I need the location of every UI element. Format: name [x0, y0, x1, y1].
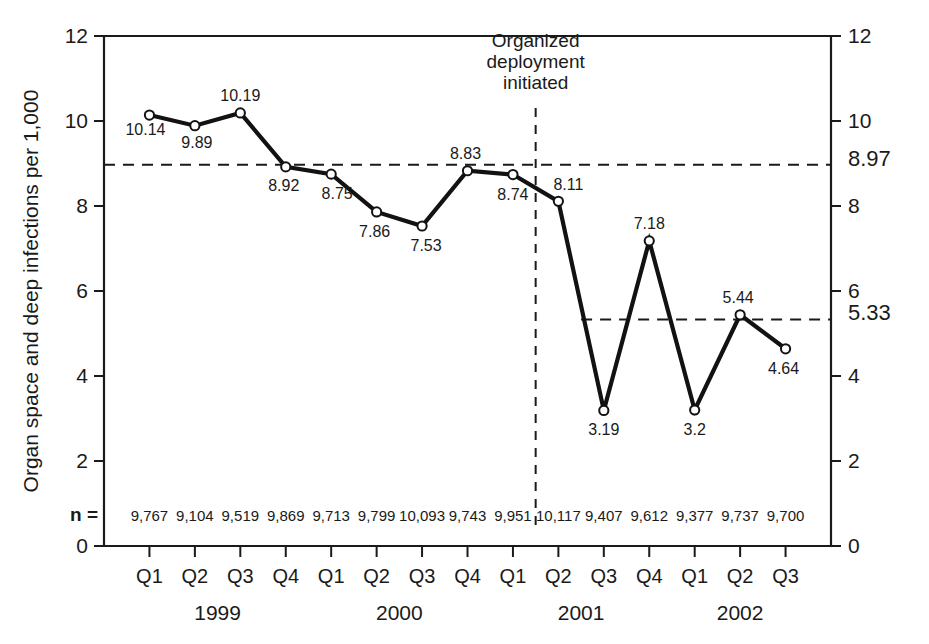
data-value-label: 5.44 [723, 289, 754, 306]
n-value: 9,407 [585, 507, 623, 524]
data-point [281, 162, 290, 171]
year-label: 2001 [558, 601, 605, 624]
n-value: 9,951 [494, 507, 532, 524]
y-axis-right-ticks: 024681012 [831, 24, 871, 557]
data-point [463, 166, 472, 175]
data-point [145, 110, 154, 119]
data-point [690, 405, 699, 414]
infection-rate-line-chart: 024681012 024681012 Organ space and deep… [0, 0, 929, 644]
data-value-label: 3.2 [684, 421, 706, 438]
y-tick-label-right: 8 [848, 194, 860, 217]
n-value: 9,869 [267, 507, 305, 524]
y-tick-label-left: 0 [76, 534, 88, 557]
chart-svg: 024681012 024681012 Organ space and deep… [0, 0, 929, 644]
y-tick-label-left: 12 [65, 24, 88, 47]
data-point [372, 207, 381, 216]
data-point [645, 236, 654, 245]
quarter-labels: Q1Q2Q3Q4Q1Q2Q3Q4Q1Q2Q3Q4Q1Q2Q3 [136, 565, 799, 587]
year-label: 2002 [717, 601, 764, 624]
y-axis-title: Organ space and deep infections per 1,00… [19, 90, 42, 493]
quarter-label: Q1 [136, 565, 163, 587]
data-value-label: 8.92 [268, 177, 299, 194]
quarter-label: Q4 [454, 565, 481, 587]
data-value-label: 7.53 [410, 237, 441, 254]
n-value: 9,377 [676, 507, 714, 524]
data-value-label: 4.64 [768, 360, 799, 377]
year-label: 1999 [194, 601, 241, 624]
y-tick-label-right: 4 [848, 364, 860, 387]
n-value: 9,767 [131, 507, 169, 524]
n-value: 10,093 [399, 507, 445, 524]
data-value-label: 9.89 [181, 134, 212, 151]
n-value: 9,519 [222, 507, 260, 524]
quarter-label: Q3 [409, 565, 436, 587]
quarter-label: Q3 [772, 565, 799, 587]
quarter-label: Q4 [272, 565, 299, 587]
n-value: 10,117 [536, 507, 581, 524]
quarter-label: Q1 [500, 565, 527, 587]
quarter-label: Q2 [182, 565, 209, 587]
data-value-label: 8.11 [553, 176, 583, 193]
data-point [736, 310, 745, 319]
quarter-label: Q1 [318, 565, 345, 587]
data-value-label: 8.74 [497, 186, 528, 203]
data-value-label: 8.75 [322, 185, 353, 202]
n-values-row: 9,7679,1049,5199,8699,7139,79910,0939,74… [131, 507, 805, 524]
event-annotation-line: initiated [503, 72, 569, 93]
quarter-label: Q2 [363, 565, 390, 587]
x-axis-ticks [149, 546, 785, 557]
y-tick-label-right: 0 [848, 534, 860, 557]
data-point [599, 406, 608, 415]
year-labels: 1999200020012002 [194, 601, 763, 624]
y-tick-label-right: 10 [848, 109, 871, 132]
n-value: 9,612 [630, 507, 668, 524]
data-point [781, 344, 790, 353]
data-value-label: 3.19 [588, 421, 619, 438]
quarter-label: Q2 [545, 565, 572, 587]
event-annotation-line: Organized [492, 30, 580, 51]
event-annotation-line: deployment [487, 51, 586, 72]
data-value-label: 10.19 [220, 87, 260, 104]
y-axis-left-ticks: 024681012 [65, 24, 104, 557]
quarter-label: Q3 [590, 565, 617, 587]
data-value-label: 10.14 [125, 121, 165, 138]
n-row-label: n = [70, 504, 98, 525]
y-tick-label-right: 12 [848, 24, 871, 47]
n-value: 9,743 [449, 507, 487, 524]
n-value: 9,737 [721, 507, 759, 524]
data-value-label: 8.83 [450, 145, 481, 162]
y-tick-label-left: 2 [76, 449, 88, 472]
event-marker-group: Organizeddeploymentinitiated [487, 30, 586, 530]
n-value: 9,799 [358, 507, 396, 524]
reference-label-pre-intervention-mean: 8.97 [848, 146, 891, 171]
reference-label-post-intervention-mean: 5.33 [848, 300, 891, 325]
y-tick-label-left: 10 [65, 109, 88, 132]
data-value-label: 7.18 [634, 215, 665, 232]
y-tick-label-left: 4 [76, 364, 88, 387]
y-tick-label-left: 6 [76, 279, 88, 302]
data-point [508, 170, 517, 179]
quarter-label: Q1 [681, 565, 708, 587]
quarter-label: Q4 [636, 565, 663, 587]
y-tick-label-right: 6 [848, 279, 860, 302]
quarter-label: Q3 [227, 565, 254, 587]
data-point [554, 197, 563, 206]
y-tick-label-right: 2 [848, 449, 860, 472]
data-point [327, 170, 336, 179]
n-value: 9,713 [312, 507, 350, 524]
n-value: 9,700 [767, 507, 805, 524]
data-point [190, 121, 199, 130]
year-label: 2000 [376, 601, 423, 624]
n-value: 9,104 [176, 507, 214, 524]
data-value-label: 7.86 [359, 223, 390, 240]
data-point [417, 221, 426, 230]
quarter-label: Q2 [727, 565, 754, 587]
data-value-labels: 10.149.8910.198.928.757.867.538.838.748.… [125, 87, 799, 439]
data-point [236, 108, 245, 117]
y-tick-label-left: 8 [76, 194, 88, 217]
